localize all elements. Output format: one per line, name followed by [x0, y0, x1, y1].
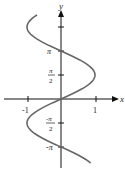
x-axis-arrow-icon	[112, 96, 119, 102]
x-axis-label: x	[119, 94, 124, 104]
y-tick-neg-pi: -π	[46, 143, 54, 152]
y-tick-neg-pi-half-den: 2	[49, 125, 53, 133]
x-tick-neg1: -1	[22, 106, 29, 115]
y-axis-label: y	[58, 1, 63, 11]
y-tick-neg-pi-half-num: -π	[46, 115, 52, 123]
sine-graph: y x -1 1 π π 2 -π 2 -π	[0, 0, 125, 172]
y-axis-arrow-icon	[58, 10, 64, 17]
y-tick-pi-half-num: π	[49, 67, 53, 75]
y-tick-pi: π	[47, 47, 52, 56]
y-tick-pi-half-den: 2	[49, 77, 53, 85]
x-tick-pos1: 1	[93, 106, 97, 115]
